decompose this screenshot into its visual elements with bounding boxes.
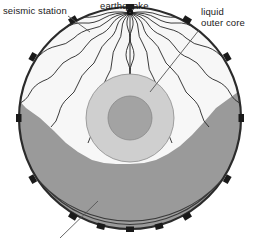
seismic-station-marker[interactable] bbox=[16, 114, 22, 122]
earth-cross-section-diagram bbox=[0, 0, 260, 238]
diagram-page: seismic station earthquake liquid outer … bbox=[0, 0, 260, 238]
label-seismic-station: seismic station bbox=[3, 5, 67, 16]
inner-core bbox=[108, 96, 152, 140]
label-liquid-outer-core-line1: liquid bbox=[201, 6, 224, 17]
label-liquid-outer-core-line2: outer core bbox=[201, 17, 245, 28]
label-liquid-outer-core: liquid outer core bbox=[201, 6, 259, 28]
seismic-station-marker[interactable] bbox=[126, 227, 134, 233]
seismic-station-marker[interactable] bbox=[239, 114, 245, 122]
label-earthquake: earthquake bbox=[100, 0, 149, 11]
